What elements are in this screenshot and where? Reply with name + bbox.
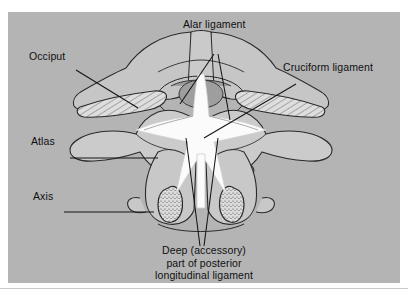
- label-axis: Axis: [33, 190, 53, 203]
- label-occiput: Occiput: [29, 50, 65, 63]
- footer-rule: [0, 288, 408, 289]
- label-atlas: Atlas: [31, 135, 55, 148]
- deep-label-line-3: longitudinal ligament: [129, 269, 279, 282]
- figure-stage: Alar ligament Occiput Cruciform ligament…: [0, 0, 408, 297]
- anatomy-panel: [8, 12, 400, 283]
- label-cruciform-ligament: Cruciform ligament: [283, 61, 373, 74]
- axis-cut-surface-left: [158, 186, 183, 222]
- label-alar-ligament: Alar ligament: [183, 18, 246, 31]
- label-deep-accessory-ligament: Deep (accessory) part of posterior longi…: [129, 244, 279, 282]
- deep-label-line-1: Deep (accessory): [129, 244, 279, 257]
- deep-label-line-2: part of posterior: [129, 257, 279, 270]
- axis-cut-surface-right: [219, 186, 244, 222]
- craniovertebral-junction-illustration: [8, 12, 400, 283]
